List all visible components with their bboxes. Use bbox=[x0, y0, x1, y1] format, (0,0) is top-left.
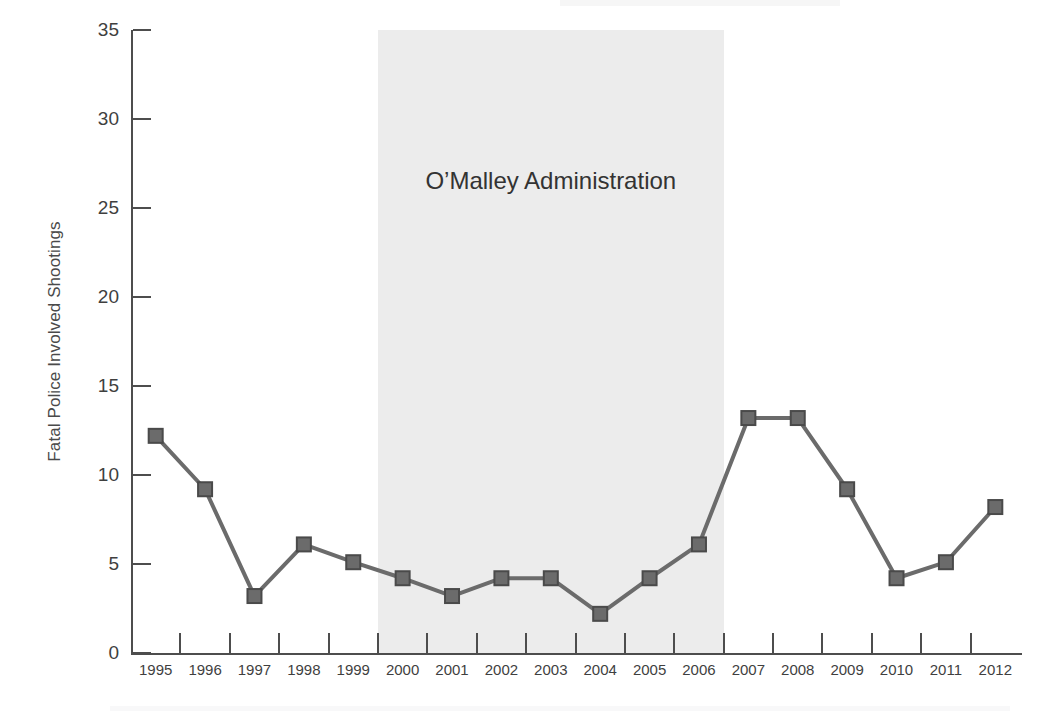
x-axis-tick bbox=[970, 633, 972, 653]
x-axis-tick bbox=[920, 633, 922, 653]
x-axis-tick-label: 2012 bbox=[965, 662, 1025, 677]
y-axis-tick bbox=[133, 474, 151, 476]
x-axis-tick bbox=[426, 633, 428, 653]
y-axis-tick-label: 35 bbox=[79, 20, 119, 39]
y-axis-tick-label: 15 bbox=[79, 376, 119, 395]
x-axis-tick bbox=[673, 633, 675, 653]
x-axis-tick bbox=[723, 633, 725, 653]
x-axis-tick bbox=[179, 633, 181, 653]
y-axis-tick bbox=[133, 563, 151, 565]
plot-area: O’Malley Administration bbox=[131, 30, 1020, 653]
x-axis-tick bbox=[575, 633, 577, 653]
y-axis-tick-label: 20 bbox=[79, 287, 119, 306]
x-axis-tick bbox=[278, 633, 280, 653]
x-axis-tick bbox=[476, 633, 478, 653]
y-axis-tick-label: 25 bbox=[79, 198, 119, 217]
x-axis-tick bbox=[871, 633, 873, 653]
y-axis-tick-label: 30 bbox=[79, 109, 119, 128]
y-axis-title: Fatal Police Involved Shootings bbox=[42, 30, 68, 653]
page-bleed-artifact-bottom bbox=[110, 706, 1010, 711]
y-axis-tick bbox=[133, 118, 151, 120]
chart-figure: Fatal Police Involved Shootings O’Malley… bbox=[0, 0, 1052, 718]
y-axis-tick bbox=[133, 207, 151, 209]
x-axis-tick bbox=[821, 633, 823, 653]
y-axis-tick bbox=[133, 385, 151, 387]
x-axis-tick bbox=[377, 633, 379, 653]
x-axis-tick bbox=[525, 633, 527, 653]
x-axis-tick bbox=[328, 633, 330, 653]
x-axis-line bbox=[131, 653, 1022, 655]
omalley-administration-label: O’Malley Administration bbox=[378, 167, 724, 195]
y-axis-tick bbox=[133, 296, 151, 298]
x-axis-tick bbox=[624, 633, 626, 653]
y-axis-tick-label: 5 bbox=[79, 554, 119, 573]
y-axis-line bbox=[131, 30, 133, 655]
page-bleed-artifact-top bbox=[560, 0, 840, 6]
omalley-administration-band bbox=[378, 30, 724, 653]
x-axis-tick bbox=[772, 633, 774, 653]
y-axis-tick bbox=[133, 652, 151, 654]
x-axis-tick bbox=[229, 633, 231, 653]
y-axis-tick bbox=[133, 29, 151, 31]
y-axis-tick-label: 10 bbox=[79, 465, 119, 484]
y-axis-tick-label: 0 bbox=[79, 643, 119, 662]
